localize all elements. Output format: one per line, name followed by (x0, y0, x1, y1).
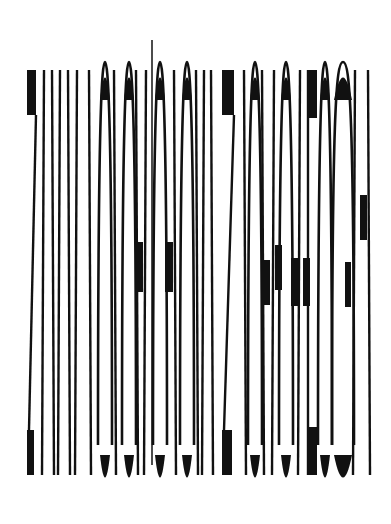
stroke-line (244, 70, 246, 475)
arch-foot (100, 455, 110, 478)
stroke-line (211, 70, 213, 475)
arch-foot (281, 455, 291, 478)
mid-block (303, 258, 310, 306)
mid-block (165, 242, 173, 292)
mid-block (136, 242, 143, 292)
stroke-line (368, 70, 370, 475)
stroke-arch (180, 62, 194, 445)
stroke-bar-bottom (27, 430, 34, 475)
stroke-bar-top (27, 70, 36, 115)
mid-block (360, 195, 367, 240)
stroke-line (196, 70, 198, 475)
stroke-line (272, 70, 274, 475)
stroke-arch (318, 62, 332, 445)
stroke-line (174, 70, 176, 475)
stroke-diagonal (29, 115, 36, 430)
stroke-line (58, 70, 60, 475)
mid-block (345, 262, 351, 307)
mid-block (291, 258, 299, 306)
stroke-bar-bottom (307, 427, 317, 475)
stroke-line (89, 70, 91, 475)
stroke-arch (248, 62, 262, 445)
stroke-line (75, 70, 77, 475)
arch-foot (334, 455, 352, 478)
arch-foot (320, 455, 330, 478)
stroke-line (42, 70, 44, 475)
stroke-bar-top (222, 70, 234, 115)
arch-foot (182, 455, 192, 478)
stroke-arch (98, 62, 112, 445)
stroke-line (68, 70, 70, 475)
stroke-line (202, 70, 204, 475)
condensed-text-art (0, 0, 391, 524)
arch-foot (124, 455, 134, 478)
mid-block (275, 245, 282, 290)
mid-block (262, 260, 270, 305)
arch-foot (155, 455, 165, 478)
stroke-arch (122, 62, 136, 445)
stroke-diagonal (224, 115, 234, 430)
stroke-line (144, 70, 146, 475)
stroke-bar-bottom (222, 430, 232, 475)
arch-foot (250, 455, 260, 478)
stroke-arch (332, 62, 354, 445)
stroke-arch (153, 62, 167, 445)
stroke-line (114, 70, 116, 475)
stroke-line (52, 70, 54, 475)
